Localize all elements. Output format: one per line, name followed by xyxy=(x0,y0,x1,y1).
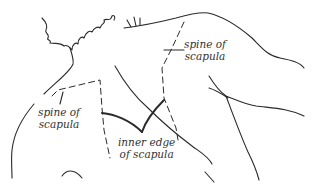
label-line-1: inner edge xyxy=(118,136,175,148)
hair-outline xyxy=(42,15,115,50)
right-scapula-outline xyxy=(162,22,184,140)
lower-back-curve xyxy=(62,171,82,178)
label-spine-of-scapula-left: spine of scapula xyxy=(38,106,80,130)
inner-edge-curve-left xyxy=(102,113,142,132)
hair-strand-1 xyxy=(127,20,131,27)
label-line-1: spine of xyxy=(38,106,80,118)
label-line-1: spine of xyxy=(184,38,226,50)
label-line-2: scapula xyxy=(38,118,80,130)
label-line-2: of scapula xyxy=(118,148,175,160)
inner-edge-curve-right xyxy=(142,100,164,132)
left-back-outline xyxy=(12,104,34,178)
label-line-2: scapula xyxy=(184,50,226,62)
arm-line-lower xyxy=(226,96,259,180)
label-inner-edge-of-scapula: inner edge of scapula xyxy=(118,136,175,160)
pointer-left-spine xyxy=(60,92,63,104)
body-sketch xyxy=(0,0,314,192)
arm-curve xyxy=(209,76,304,116)
label-spine-of-scapula-right: spine of scapula xyxy=(184,38,226,62)
scapula-diagram: spine of scapula spine of scapula inner … xyxy=(0,0,314,192)
hair-strand-2 xyxy=(134,17,136,26)
lower-back-fragment xyxy=(205,172,214,182)
